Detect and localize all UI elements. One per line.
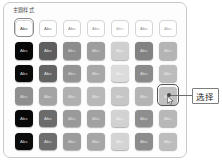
theme-swatch[interactable]: Abc xyxy=(159,20,177,38)
theme-swatch-cell[interactable]: Abc xyxy=(132,40,156,63)
theme-swatch-cell[interactable]: Abc xyxy=(132,130,156,153)
swatch-label: Abc xyxy=(116,139,124,144)
theme-swatch[interactable]: Abc xyxy=(159,42,177,60)
theme-swatch[interactable]: Abc xyxy=(159,133,177,151)
swatch-label: Abc xyxy=(92,139,100,144)
theme-swatch[interactable]: Abc xyxy=(15,20,33,38)
theme-swatch-cell[interactable]: Abc xyxy=(12,85,36,108)
theme-swatch-cell[interactable]: Abc xyxy=(108,17,132,40)
swatch-label: Abc xyxy=(164,48,172,53)
swatch-label: Abc xyxy=(164,26,172,31)
callout-box: 选择 xyxy=(192,88,219,104)
callout-leader-line xyxy=(169,95,193,96)
swatch-label: Abc xyxy=(116,116,124,121)
theme-swatch-cell[interactable]: Abc xyxy=(84,62,108,85)
theme-swatch-cell[interactable]: Abc xyxy=(12,40,36,63)
theme-swatch[interactable]: Abc xyxy=(135,65,153,83)
theme-swatch[interactable]: Abc xyxy=(15,87,33,105)
theme-swatch[interactable]: Abc xyxy=(39,42,57,60)
theme-swatch-cell[interactable]: Abc xyxy=(108,62,132,85)
theme-swatch[interactable]: Abc xyxy=(39,110,57,128)
swatch-label: Abc xyxy=(140,71,148,76)
theme-swatch-cell[interactable]: Abc xyxy=(12,62,36,85)
theme-swatch-cell[interactable]: Abc xyxy=(60,62,84,85)
theme-swatch[interactable]: Abc xyxy=(159,65,177,83)
theme-swatch[interactable]: Abc xyxy=(135,42,153,60)
theme-swatch-cell[interactable]: Abc xyxy=(12,17,36,40)
theme-swatch[interactable]: Abc xyxy=(39,65,57,83)
theme-swatch[interactable]: Abc xyxy=(63,87,81,105)
theme-swatch-cell[interactable]: Abc xyxy=(156,107,180,130)
theme-swatch-cell[interactable]: Abc xyxy=(36,130,60,153)
theme-swatch[interactable]: Abc xyxy=(15,65,33,83)
theme-swatch-cell[interactable]: Abc xyxy=(132,17,156,40)
theme-swatch[interactable]: Abc xyxy=(87,20,105,38)
theme-swatch-cell[interactable]: Abc xyxy=(60,107,84,130)
theme-swatch-cell[interactable]: Abc xyxy=(36,62,60,85)
swatch-label: Abc xyxy=(92,48,100,53)
theme-swatch-cell[interactable]: Abc xyxy=(132,85,156,108)
theme-swatch[interactable]: Abc xyxy=(63,133,81,151)
theme-swatch[interactable]: Abc xyxy=(111,87,129,105)
theme-style-grid[interactable]: AbcAbcAbcAbcAbcAbcAbcAbcAbcAbcAbcAbcAbcA… xyxy=(12,17,180,153)
swatch-label: Abc xyxy=(116,26,124,31)
swatch-label: Abc xyxy=(68,116,76,121)
theme-swatch[interactable]: Abc xyxy=(111,133,129,151)
theme-swatch-cell[interactable]: Abc xyxy=(36,85,60,108)
theme-swatch[interactable]: Abc xyxy=(87,87,105,105)
theme-swatch-cell[interactable]: Abc xyxy=(132,107,156,130)
theme-swatch[interactable]: Abc xyxy=(87,133,105,151)
theme-swatch-cell[interactable]: Abc xyxy=(36,17,60,40)
theme-swatch-cell[interactable]: Abc xyxy=(84,17,108,40)
theme-swatch-cell[interactable]: Abc xyxy=(84,107,108,130)
theme-swatch-cell[interactable]: Abc xyxy=(132,62,156,85)
theme-swatch-cell[interactable]: Abc xyxy=(84,85,108,108)
theme-swatch-cell[interactable]: Abc xyxy=(156,130,180,153)
theme-swatch[interactable]: Abc xyxy=(63,65,81,83)
theme-swatch-cell[interactable]: Abc xyxy=(108,107,132,130)
theme-swatch-cell[interactable]: Abc xyxy=(60,17,84,40)
theme-swatch-cell[interactable]: Abc xyxy=(60,130,84,153)
theme-swatch[interactable]: Abc xyxy=(39,87,57,105)
theme-swatch[interactable]: Abc xyxy=(87,65,105,83)
theme-swatch[interactable]: Abc xyxy=(87,110,105,128)
theme-swatch-cell[interactable]: Abc xyxy=(108,85,132,108)
theme-swatch-cell[interactable]: Abc xyxy=(108,40,132,63)
theme-swatch[interactable]: Abc xyxy=(135,87,153,105)
theme-swatch-cell[interactable]: Abc xyxy=(12,130,36,153)
theme-swatch[interactable]: Abc xyxy=(135,133,153,151)
theme-swatch-cell[interactable]: Abc xyxy=(84,130,108,153)
theme-swatch[interactable]: Abc xyxy=(111,110,129,128)
theme-swatch[interactable]: Abc xyxy=(39,133,57,151)
swatch-label: Abc xyxy=(68,71,76,76)
theme-swatch-cell[interactable]: Abc xyxy=(156,40,180,63)
theme-swatch-cell[interactable]: Abc xyxy=(60,85,84,108)
theme-swatch-cell[interactable]: Abc xyxy=(108,130,132,153)
swatch-label: Abc xyxy=(68,26,76,31)
theme-swatch[interactable]: Abc xyxy=(135,20,153,38)
theme-swatch-cell[interactable]: Abc xyxy=(60,40,84,63)
theme-swatch[interactable]: Abc xyxy=(111,20,129,38)
theme-swatch[interactable]: Abc xyxy=(15,133,33,151)
theme-swatch[interactable]: Abc xyxy=(63,42,81,60)
theme-swatch[interactable]: Abc xyxy=(15,110,33,128)
theme-swatch[interactable]: Abc xyxy=(87,42,105,60)
theme-swatch-cell[interactable]: Abc xyxy=(12,107,36,130)
theme-swatch-cell[interactable]: Abc xyxy=(156,17,180,40)
theme-swatch-cell[interactable]: Abc xyxy=(84,40,108,63)
theme-swatch[interactable]: Abc xyxy=(63,110,81,128)
theme-swatch[interactable]: Abc xyxy=(135,110,153,128)
theme-swatch[interactable]: Abc xyxy=(63,20,81,38)
theme-swatch[interactable]: Abc xyxy=(111,65,129,83)
swatch-label: Abc xyxy=(44,71,52,76)
theme-swatch-cell[interactable]: Abc xyxy=(36,107,60,130)
theme-swatch[interactable]: Abc xyxy=(15,42,33,60)
theme-swatch[interactable]: Abc xyxy=(39,20,57,38)
theme-swatch[interactable]: Abc xyxy=(111,42,129,60)
theme-swatch-cell[interactable]: Abc xyxy=(36,40,60,63)
theme-swatch-cell[interactable]: Abc xyxy=(156,62,180,85)
swatch-label: Abc xyxy=(20,139,28,144)
swatch-label: Abc xyxy=(20,71,28,76)
theme-swatch[interactable]: Abc xyxy=(159,110,177,128)
swatch-label: Abc xyxy=(164,116,172,121)
